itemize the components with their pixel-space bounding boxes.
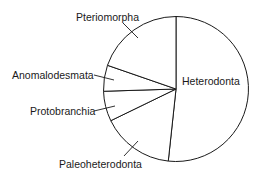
pie-chart: Heterodonta Pteriomorpha Anomalodesmata … — [0, 0, 264, 175]
label-pteriomorpha: Pteriomorpha — [76, 11, 139, 23]
label-anomalodesmata: Anomalodesmata — [12, 69, 94, 81]
label-paleoheterodonta: Paleoheterodonta — [59, 158, 142, 170]
label-heterodonta: Heterodonta — [182, 75, 240, 87]
pie-slices — [104, 17, 249, 162]
label-protobranchia: Protobranchia — [30, 105, 96, 117]
slice-heterodonta — [168, 17, 248, 162]
